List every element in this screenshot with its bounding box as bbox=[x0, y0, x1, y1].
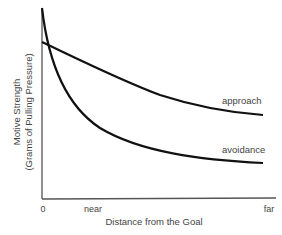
x-axis-label: Distance from the Goal bbox=[105, 216, 202, 227]
x-tick-0: 0 bbox=[40, 204, 45, 214]
avoidance-label: avoidance bbox=[222, 144, 265, 155]
x-tick-near: near bbox=[84, 204, 102, 214]
chart-canvas: approach avoidance 0 near far Distance f… bbox=[0, 0, 282, 235]
x-axis bbox=[42, 198, 276, 199]
avoidance-curve bbox=[42, 8, 263, 163]
x-tick-far: far bbox=[264, 204, 275, 214]
y-axis-sublabel: (Grams of Pulling Pressure) bbox=[23, 53, 34, 170]
approach-label: approach bbox=[222, 95, 262, 106]
y-axis-label: Motive Strength bbox=[11, 79, 22, 146]
